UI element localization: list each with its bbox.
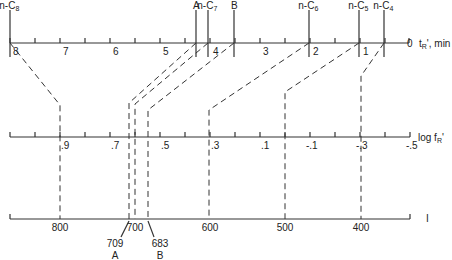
- middle-axis-tick-label: -.5: [406, 140, 418, 151]
- marker-label-B: B: [231, 0, 238, 11]
- annotation-value-A: 709: [107, 238, 124, 249]
- marker-label-n-C4: n-C4: [373, 0, 393, 12]
- marker-label-n-C6: n-C6: [298, 0, 318, 12]
- marker-label-n-C5: n-C5: [348, 0, 368, 12]
- top-axis-tick-label: 2: [313, 46, 319, 57]
- nomogram-canvas: 876543210tR', min.9.7.5.3.1-.1-.3-.5log …: [0, 0, 452, 260]
- connector-B: [148, 43, 234, 219]
- middle-axis-tick-label: .3: [211, 140, 220, 151]
- middle-axis-tick-label: .5: [161, 140, 170, 151]
- middle-axis-tick-label: .9: [61, 140, 70, 151]
- annotation-letter-A: A: [112, 250, 119, 260]
- connector-n-C6: [209, 43, 309, 219]
- bottom-axis-title: I: [426, 213, 429, 224]
- top-axis-tick-label: 7: [63, 46, 69, 57]
- marker-label-n-C8: n-C8: [0, 0, 19, 12]
- top-axis-tick-label: 0: [407, 38, 413, 49]
- connector-n-C8: [10, 43, 60, 219]
- middle-axis-tick-label: -.3: [356, 140, 368, 151]
- bottom-axis-tick-label: 600: [202, 222, 219, 233]
- top-axis-tick-label: 6: [113, 46, 119, 57]
- connector-n-C7: [135, 43, 208, 219]
- bottom-axis-tick-label: 400: [353, 222, 370, 233]
- nomogram-diagram: 876543210tR', min.9.7.5.3.1-.1-.3-.5log …: [0, 0, 452, 260]
- top-axis-tick-label: 3: [263, 46, 269, 57]
- connector-A: [129, 43, 196, 219]
- bottom-axis-tick-label: 800: [52, 222, 69, 233]
- top-axis-tick-label: 1: [363, 46, 369, 57]
- middle-axis-tick-label: .7: [111, 140, 120, 151]
- annotation-arrow-B: [148, 221, 154, 237]
- middle-axis-tick-label: -.1: [306, 140, 318, 151]
- bottom-axis-tick-label: 700: [127, 222, 144, 233]
- marker-label-n-C7: n-C7: [197, 0, 217, 12]
- top-axis-tick-label: 5: [163, 46, 169, 57]
- middle-axis-tick-label: .1: [261, 140, 270, 151]
- top-axis-tick-label: 8: [13, 46, 19, 57]
- top-axis-title: tR', min: [419, 38, 450, 50]
- connector-n-C4: [361, 43, 384, 219]
- annotation-value-B: 683: [152, 238, 169, 249]
- middle-axis-title: log fR': [418, 132, 444, 144]
- bottom-axis-tick-label: 500: [277, 222, 294, 233]
- connector-n-C5: [285, 43, 359, 219]
- annotation-letter-B: B: [157, 250, 164, 260]
